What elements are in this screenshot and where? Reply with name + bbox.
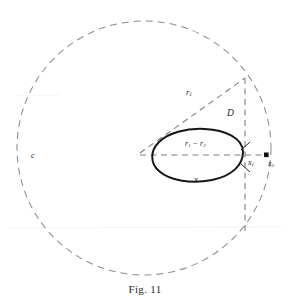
- paper-streak: [14, 95, 60, 96]
- figure-drawing-canvas: [0, 0, 290, 308]
- radius-difference-label: r1 − r2: [185, 140, 206, 149]
- radius-label-r1: r1: [186, 88, 192, 97]
- point-marker: [264, 153, 269, 158]
- region-label-x: x: [194, 175, 198, 184]
- distance-label-D: D: [227, 109, 234, 119]
- exterior-point-label: x2: [268, 160, 274, 169]
- vertex-label-c: c: [31, 151, 35, 160]
- tangent-point-label: x1: [248, 159, 254, 168]
- figure-caption: Fig. 11: [0, 283, 290, 295]
- figure-11-container: c r1 D r1 − r2 x x1 x2 Fig. 11: [0, 0, 290, 308]
- outer-dashed-circle: [17, 21, 271, 275]
- paper-streak: [8, 227, 282, 228]
